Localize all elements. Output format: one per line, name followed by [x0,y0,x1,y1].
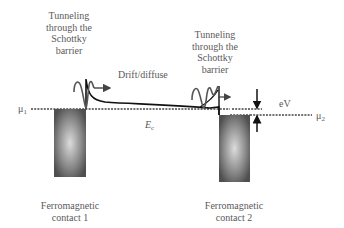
mu2-label: μ2 [316,110,325,126]
tunnel-left-line-1: Tunneling [36,10,102,22]
mu2-subscript: 2 [321,115,325,123]
contact-2-line-2: contact 2 [194,212,274,224]
ec-subscript: c [151,124,154,132]
tunnel-right-line-4: barrier [182,64,248,76]
contact-2-label: Ferromagnetic contact 2 [194,200,274,223]
mu1-label: μ1 [18,103,27,119]
tunnel-left-line-4: barrier [36,45,102,57]
mu1-subscript: 1 [23,108,27,116]
contact-1-label: Ferromagnetic contact 1 [30,200,110,223]
tunnel-left-line-3: Schottky [36,33,102,45]
tunnel-right-line-3: Schottky [182,52,248,64]
tunnel-right-line-2: through the [182,41,248,53]
tunnel-left-label: Tunneling through the Schottky barrier [36,10,102,56]
ec-label: Ec [145,119,154,135]
contact-1-line-1: Ferromagnetic [30,200,110,212]
ev-label: eV [279,98,291,110]
tunnel-left-line-2: through the [36,22,102,34]
ferromagnetic-contact-1 [54,109,86,177]
right-tunneling-wave [192,86,218,108]
tunnel-right-label: Tunneling through the Schottky barrier [182,29,248,75]
contact-2-line-1: Ferromagnetic [194,200,274,212]
tunnel-right-line-1: Tunneling [182,29,248,41]
contact-1-line-2: contact 1 [30,212,110,224]
ferromagnetic-contact-2 [219,115,250,182]
drift-diffuse-label: Drift/diffuse [118,69,188,81]
